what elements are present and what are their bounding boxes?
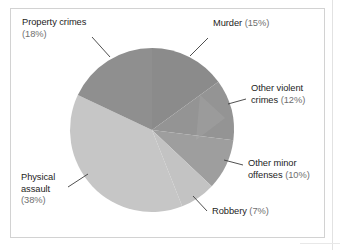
pie-label-murder-name: Murder [213,18,242,28]
pie-label-physical-assault: Physical assault (38%) [21,172,55,207]
figure-screenshot: Property crimes (18%) Murder (15%) Other… [0,0,340,250]
pie-label-property-crimes-percent: (18%) [22,29,86,41]
pie-label-robbery-percent: (7%) [249,206,268,216]
leader-line-physical-assault [68,174,88,187]
pie-label-other-minor-offenses-percent: (10%) [285,170,310,180]
pie-label-murder-percent: (15%) [245,18,270,28]
pie-label-other-violent-crimes-percent: (12%) [281,95,306,105]
pie-label-other-violent-crimes-line2: crimes (12%) [251,95,305,107]
pie-label-robbery: Robbery (7%) [212,206,269,218]
pie-label-murder: Murder (15%) [213,18,269,30]
pie-label-property-crimes-line1: Property crimes [22,17,86,29]
pie-label-physical-assault-line2: assault [21,184,55,196]
pie-label-other-minor-offenses-line1: Other minor [248,158,310,170]
pie-label-other-violent-crimes-line1: Other violent [251,83,305,95]
leader-line-robbery [193,196,207,211]
leader-line-murder [190,38,208,56]
pie-label-other-violent-crimes-name: crimes [251,95,278,105]
pie-label-other-violent-crimes: Other violent crimes (12%) [251,83,305,106]
pie-label-other-minor-offenses: Other minor offenses (10%) [248,158,310,181]
pie-label-other-minor-offenses-name: offenses [248,170,283,180]
pie-label-property-crimes: Property crimes (18%) [22,17,86,40]
leader-line-property-crimes [92,37,110,57]
pie-label-robbery-name: Robbery [212,206,247,216]
leader-line-other-violent-crimes [228,99,246,104]
pie-label-physical-assault-percent: (38%) [21,195,55,207]
pie-label-other-minor-offenses-line2: offenses (10%) [248,170,310,182]
pie-label-physical-assault-line1: Physical [21,172,55,184]
